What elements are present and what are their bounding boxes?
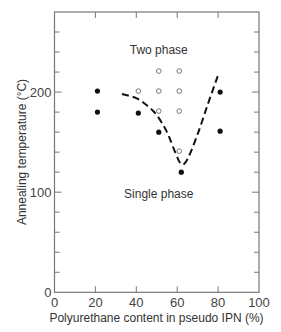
open-point xyxy=(177,109,182,114)
filled-point xyxy=(156,130,161,135)
data-points xyxy=(95,69,223,175)
open-point xyxy=(177,69,182,74)
filled-point xyxy=(218,129,223,134)
single-phase-label: Single phase xyxy=(124,187,194,201)
x-tick-label: 20 xyxy=(88,295,102,310)
x-axis-title: Polyurethane content in pseudo IPN (%) xyxy=(49,311,263,325)
filled-point xyxy=(95,110,100,115)
open-point xyxy=(136,89,141,94)
x-tick-label: 40 xyxy=(129,295,143,310)
y-axis-title: Annealing temperature (°C) xyxy=(15,79,29,225)
open-point xyxy=(156,109,161,114)
open-point xyxy=(156,69,161,74)
phase-diagram-chart: 0204060801000100200 Two phase Single pha… xyxy=(0,0,281,332)
y-tick-label: 0 xyxy=(44,285,51,300)
two-phase-label: Two phase xyxy=(130,43,188,57)
x-tick-label: 0 xyxy=(51,295,58,310)
x-tick-label: 100 xyxy=(248,295,270,310)
y-tick-label: 200 xyxy=(30,85,52,100)
filled-point xyxy=(136,111,141,116)
x-tick-label: 80 xyxy=(211,295,225,310)
y-tick-label: 100 xyxy=(30,185,52,200)
phase-boundary-curve xyxy=(122,75,218,165)
open-point xyxy=(156,89,161,94)
x-tick-label: 60 xyxy=(170,295,184,310)
filled-point xyxy=(179,170,184,175)
open-point xyxy=(177,89,182,94)
open-point xyxy=(177,149,182,154)
filled-point xyxy=(95,88,100,93)
filled-point xyxy=(218,89,223,94)
